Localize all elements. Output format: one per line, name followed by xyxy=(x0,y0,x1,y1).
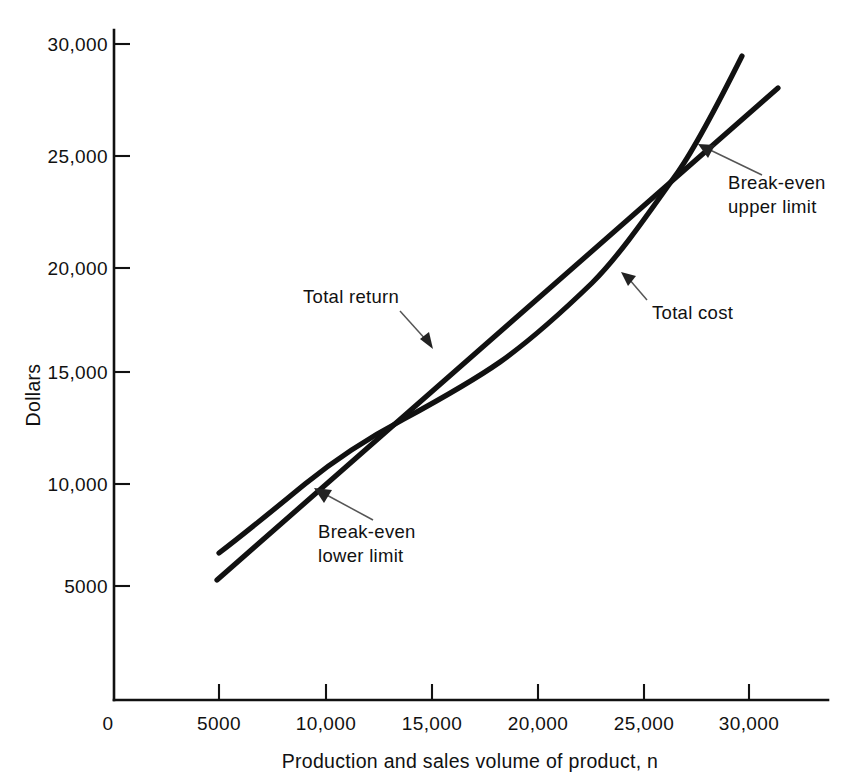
y-tick-label-25000: 25,000 xyxy=(47,146,108,167)
x-tick-label-15000: 15,000 xyxy=(402,713,463,734)
chart-svg: 30,000 25,000 20,000 15,000 10,000 5000 … xyxy=(0,0,850,778)
x-tick-label-10000: 10,000 xyxy=(296,713,357,734)
annotation-break-even-lower: Break-even lower limit xyxy=(314,488,416,566)
y-tick-label-30000: 30,000 xyxy=(47,34,108,55)
series-total-return xyxy=(217,88,778,580)
y-axis-title: Dollars xyxy=(22,364,44,427)
annotation-break-even-upper: Break-even upper limit xyxy=(698,144,826,217)
annotation-total-return: Total return xyxy=(303,286,433,349)
y-tick-label-20000: 20,000 xyxy=(47,258,108,279)
break-even-upper-line1: Break-even xyxy=(728,172,826,193)
x-tick-label-25000: 25,000 xyxy=(614,713,675,734)
x-tick-label-0: 0 xyxy=(103,713,114,734)
y-tick-label-15000: 15,000 xyxy=(47,362,108,383)
annotation-total-cost: Total cost xyxy=(621,272,733,323)
break-even-upper-line2: upper limit xyxy=(728,196,817,217)
x-tick-labels-group: 0 5000 10,000 15,000 20,000 25,000 30,00… xyxy=(103,713,780,734)
break-even-chart-figure: 30,000 25,000 20,000 15,000 10,000 5000 … xyxy=(0,0,850,778)
break-even-upper-leader xyxy=(706,148,762,175)
break-even-lower-line1: Break-even xyxy=(318,521,416,542)
y-tick-label-10000: 10,000 xyxy=(47,474,108,495)
y-tick-labels-group: 30,000 25,000 20,000 15,000 10,000 5000 xyxy=(47,34,108,597)
x-tick-label-5000: 5000 xyxy=(197,713,241,734)
y-tick-label-5000: 5000 xyxy=(64,576,108,597)
x-tick-label-30000: 30,000 xyxy=(719,713,780,734)
total-return-label: Total return xyxy=(303,286,399,307)
total-cost-label: Total cost xyxy=(652,302,733,323)
x-tick-label-20000: 20,000 xyxy=(508,713,569,734)
y-ticks-group xyxy=(114,44,130,586)
x-ticks-group xyxy=(219,684,749,700)
axes-group xyxy=(114,30,828,700)
total-cost-leader xyxy=(629,279,647,300)
break-even-lower-leader xyxy=(323,493,373,520)
break-even-lower-line2: lower limit xyxy=(318,545,404,566)
total-return-leader xyxy=(400,311,427,341)
x-axis-title: Production and sales volume of product, … xyxy=(282,750,659,772)
